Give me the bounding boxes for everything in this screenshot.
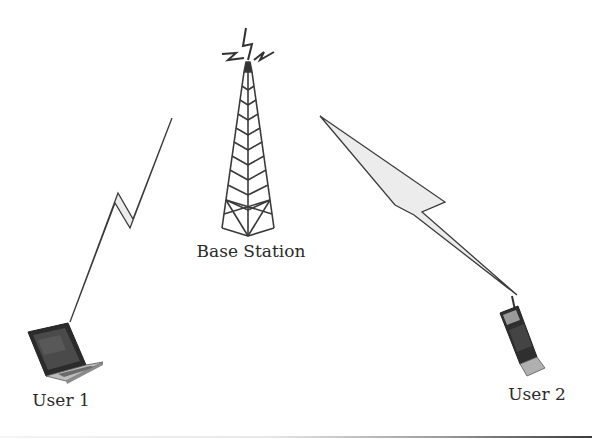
- signal-glyph-icon: [222, 28, 274, 60]
- user2-label: User 2: [508, 386, 565, 403]
- radio-tower-icon: [222, 62, 274, 236]
- wireless-link-left-icon: [70, 118, 172, 322]
- laptop-icon: [28, 323, 103, 384]
- base-station-label: Base Station: [197, 243, 306, 260]
- mobile-phone-icon: [500, 296, 545, 376]
- wireless-diagram: [0, 0, 592, 439]
- user1-label: User 1: [32, 392, 89, 409]
- bottom-divider: [0, 436, 592, 438]
- wireless-link-right-icon: [320, 116, 517, 295]
